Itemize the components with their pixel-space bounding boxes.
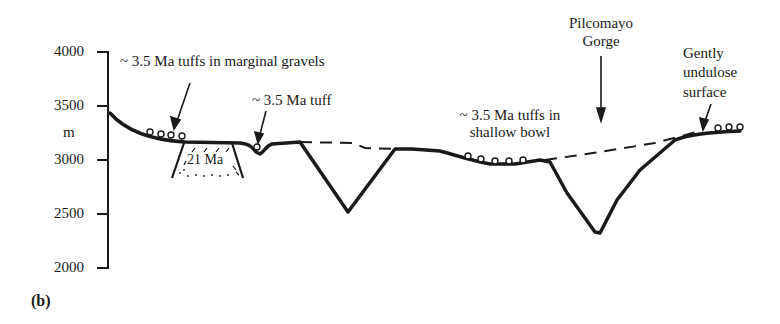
- arrow-marginal-gravels: [176, 83, 190, 124]
- label-21-ma: 21 Ma: [187, 151, 223, 168]
- y-tick-2500: 2500: [24, 205, 84, 222]
- label-gorge-line2: Gorge: [556, 33, 646, 50]
- panel-label: (b): [31, 292, 51, 309]
- arrow-head-icon: [171, 117, 180, 129]
- label-shallow-bowl-line1: ~ 3.5 Ma tuffs in: [450, 107, 570, 124]
- y-axis-unit: m: [63, 124, 75, 141]
- profile-svg: [0, 0, 780, 324]
- arrow-head-icon: [255, 132, 263, 143]
- topographic-profile-figure: 4000 3500 m 3000 2500 2000 ~ 3.5 Ma tuff…: [0, 0, 780, 324]
- y-tick-2000: 2000: [24, 259, 84, 276]
- label-marginal-gravels: ~ 3.5 Ma tuffs in marginal gravels: [120, 53, 325, 70]
- y-axis: [97, 52, 109, 269]
- y-tick-4000: 4000: [24, 43, 84, 60]
- label-surface-line3: surface: [683, 84, 726, 101]
- label-surface-line1: Gently: [683, 45, 724, 62]
- arrow-head-icon: [597, 108, 605, 121]
- y-tick-3000: 3000: [24, 151, 84, 168]
- label-single-tuff: ~ 3.5 Ma tuff: [252, 92, 332, 109]
- label-gorge-line1: Pilcomayo: [556, 15, 646, 32]
- tuff-marker-single: [254, 144, 260, 150]
- arrow-head-icon: [700, 118, 708, 130]
- label-shallow-bowl-line2: shallow bowl: [450, 124, 570, 141]
- topographic-profile-line: [110, 113, 740, 233]
- tuff-markers-surface: [715, 124, 743, 131]
- label-surface-line2: undulose: [683, 64, 737, 81]
- y-tick-3500: 3500: [24, 97, 84, 114]
